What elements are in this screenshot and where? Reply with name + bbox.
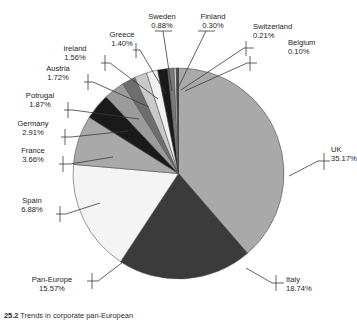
slice-value-potrugal: 1.87% [12, 100, 68, 109]
pie-slice-group [73, 68, 284, 279]
figure-caption: 25.2 Trends in corporate pan-European [4, 311, 133, 320]
slice-label-finland: Finland 0.30% [188, 12, 238, 31]
slice-value-austria: 1.72% [32, 73, 84, 82]
slice-value-sweden: 0.88% [137, 21, 187, 30]
slice-name-ireland: Ireland [49, 44, 101, 53]
slice-value-finland: 0.30% [188, 21, 238, 30]
slice-name-finland: Finland [188, 12, 238, 21]
slice-label-paneurope: Pan-Europe 15.57% [18, 275, 86, 294]
slice-label-potrugal: Potrugal 1.87% [12, 91, 68, 110]
slice-label-spain: Spain 6.88% [9, 196, 55, 215]
slice-value-spain: 6.88% [9, 205, 55, 214]
slice-value-france: 3.66% [8, 155, 58, 164]
slice-label-france: France 3.66% [8, 146, 58, 165]
slice-value-germany: 2.91% [6, 128, 60, 137]
slice-name-spain: Spain [9, 196, 55, 205]
slice-label-sweden: Sweden 0.88% [137, 12, 187, 31]
figure-caption-text: Trends in corporate pan-European [20, 311, 133, 320]
slice-value-greece: 1.40% [98, 39, 146, 48]
slice-value-uk: 35.17% [331, 154, 357, 163]
slice-value-switzerland: 0.21% [253, 31, 292, 40]
slice-value-ireland: 1.56% [49, 53, 101, 62]
slice-label-greece: Greece 1.40% [98, 30, 146, 49]
slice-name-sweden: Sweden [137, 12, 187, 21]
slice-label-italy: Italy 18.74% [286, 275, 312, 294]
leader-line-italy [246, 268, 284, 283]
figure-caption-number: 25.2 [4, 311, 18, 320]
slice-label-germany: Germany 2.91% [6, 119, 60, 138]
figure-pie-chart: UK 35.17% Italy 18.74% Pan-Europe 15.57%… [0, 0, 357, 323]
slice-name-potrugal: Potrugal [12, 91, 68, 100]
slice-label-switzerland: Switzerland 0.21% [253, 22, 292, 41]
slice-name-italy: Italy [286, 275, 312, 284]
slice-name-belgium: Belgium [288, 38, 315, 47]
slice-label-uk: UK 35.17% [331, 145, 357, 164]
slice-name-paneurope: Pan-Europe [18, 275, 86, 284]
slice-name-austria: Austria [32, 64, 84, 73]
slice-value-italy: 18.74% [286, 284, 312, 293]
slice-name-greece: Greece [98, 30, 146, 39]
slice-label-austria: Austria 1.72% [32, 64, 84, 83]
slice-name-germany: Germany [6, 119, 60, 128]
slice-name-france: France [8, 146, 58, 155]
slice-label-ireland: Ireland 1.56% [49, 44, 101, 63]
slice-value-belgium: 0.10% [288, 47, 315, 56]
slice-label-belgium: Belgium 0.10% [288, 38, 315, 57]
slice-name-switzerland: Switzerland [253, 22, 292, 31]
slice-value-paneurope: 15.57% [18, 284, 86, 293]
slice-name-uk: UK [331, 145, 357, 154]
